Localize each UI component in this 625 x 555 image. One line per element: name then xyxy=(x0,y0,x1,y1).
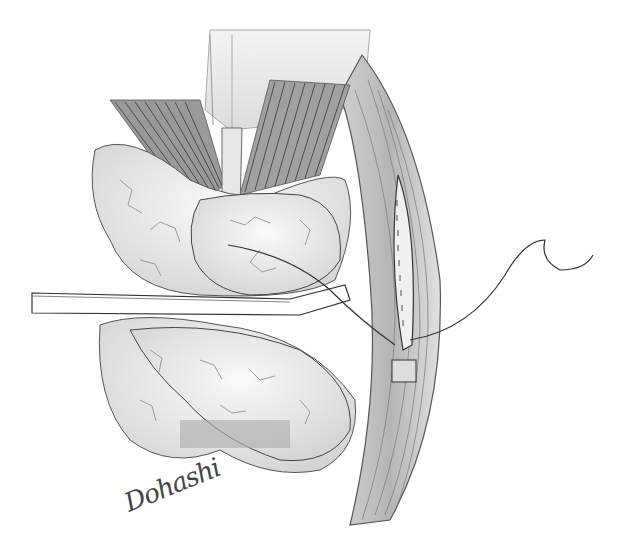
abdominal-wall xyxy=(340,55,440,525)
illustration-canvas: Dohashi xyxy=(0,0,625,555)
lower-lobes xyxy=(99,318,355,473)
surgical-drawing xyxy=(0,0,625,555)
